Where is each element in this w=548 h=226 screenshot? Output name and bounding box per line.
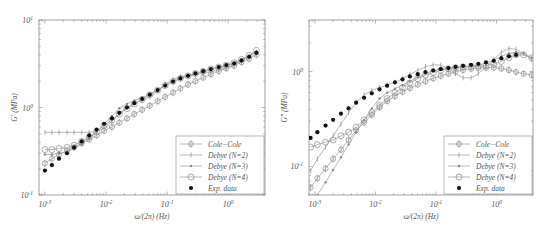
left-chart-panel: 10-310-210-110010110010-1ω/(2π) (Hz)G′ (… bbox=[0, 0, 274, 226]
legend-item-label: Debye (N=4) bbox=[475, 173, 516, 182]
legend-item-label: Exp. data bbox=[207, 184, 237, 193]
legend: Cole−ColeDebye (N=2)Debye (N=3)Debye (N=… bbox=[444, 136, 532, 194]
tick-label: 10-3 bbox=[39, 199, 52, 209]
legend-item-label: Debye (N=3) bbox=[207, 162, 248, 171]
tick-label: 10-2 bbox=[369, 199, 382, 209]
x-axis-label: ω/(2π) (Hz) bbox=[403, 212, 439, 221]
legend-item-label: Exp. data bbox=[475, 184, 505, 193]
legend-item-label: Debye (N=3) bbox=[475, 162, 516, 171]
tick-label: 10-1 bbox=[20, 190, 33, 200]
legend-item-label: Debye (N=2) bbox=[475, 151, 516, 160]
legend-item-label: Cole−Cole bbox=[208, 140, 242, 149]
tick-label: 10-1 bbox=[290, 161, 303, 171]
y-axis-label: G″ (MPa) bbox=[280, 92, 289, 122]
legend-item-label: Debye (N=2) bbox=[207, 151, 248, 160]
legend-item-label: Debye (N=4) bbox=[207, 173, 248, 182]
tick-label: 100 bbox=[22, 103, 33, 113]
tick-label: 101 bbox=[22, 15, 33, 25]
legend: Cole−ColeDebye (N=2)Debye (N=3)Debye (N=… bbox=[176, 136, 264, 194]
right-chart-panel: 10-310-210-110010010-1ω/(2π) (Hz)G″ (MPa… bbox=[274, 0, 548, 226]
x-axis-label: ω/(2π) (Hz) bbox=[134, 212, 170, 221]
tick-label: 100 bbox=[292, 67, 303, 77]
legend-item-label: Cole−Cole bbox=[476, 140, 510, 149]
tick-label: 10-1 bbox=[430, 199, 443, 209]
storage-modulus-plot: 10-310-210-110010110010-1ω/(2π) (Hz)G′ (… bbox=[0, 0, 274, 226]
tick-label: 100 bbox=[223, 199, 234, 209]
tick-label: 100 bbox=[491, 199, 502, 209]
tick-label: 10-2 bbox=[100, 199, 113, 209]
tick-label: 10-1 bbox=[161, 199, 174, 209]
tick-label: 10-3 bbox=[309, 199, 322, 209]
loss-modulus-plot: 10-310-210-110010010-1ω/(2π) (Hz)G″ (MPa… bbox=[274, 0, 548, 226]
y-axis-label: G′ (MPa) bbox=[10, 93, 19, 122]
